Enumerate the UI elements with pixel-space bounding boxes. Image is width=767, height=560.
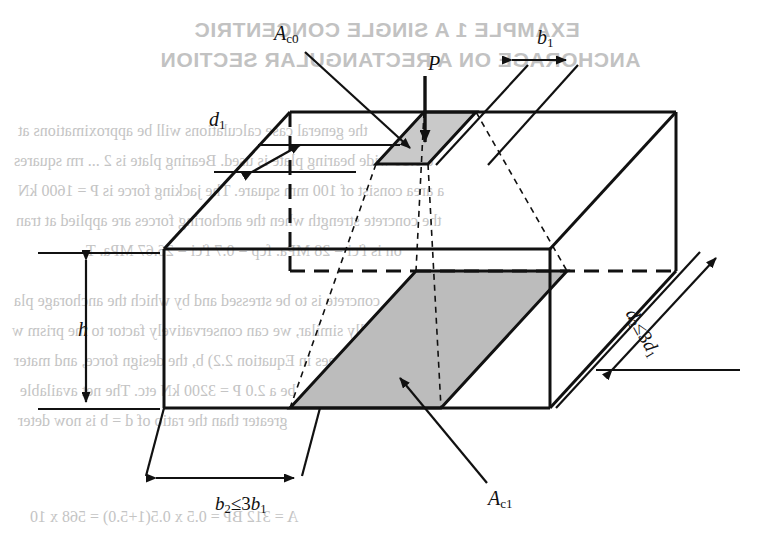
dimension-b2 <box>146 408 320 478</box>
label-load-p-base: P <box>428 52 440 74</box>
diagram-linework <box>0 0 767 560</box>
leader-ac0 <box>305 52 410 148</box>
label-ac1: Ac1 <box>488 487 513 512</box>
label-b2-operator: ≤ <box>231 493 241 514</box>
label-ac0-base: A <box>274 22 286 44</box>
label-h: h <box>78 318 88 341</box>
label-load-p: P <box>428 52 440 75</box>
label-d1: d1 <box>209 108 226 133</box>
label-b2-constraint: b2≤3b1 <box>215 493 266 517</box>
label-ac0: Ac0 <box>274 22 299 47</box>
label-b2-coefficient: 3 <box>241 493 251 514</box>
label-b2-rhs: b <box>251 493 261 514</box>
label-ac0-sub: c0 <box>286 31 298 46</box>
dimension-d1 <box>214 145 400 172</box>
label-h-base: h <box>78 318 88 340</box>
label-d1-sub: 1 <box>219 117 226 132</box>
box-hidden-edges <box>290 112 676 271</box>
label-b1-sub: 1 <box>547 35 554 50</box>
label-b1-base: b <box>537 26 547 48</box>
dimension-h <box>38 253 160 409</box>
label-d1-base: d <box>209 108 219 130</box>
anchorage-figure: EXAMPLE 1 A SINGLE CONCENTRIC ANCHORAGE … <box>0 0 767 560</box>
label-ac1-sub: c1 <box>500 496 512 511</box>
label-b1: b1 <box>537 26 554 51</box>
label-b2-lhs: b <box>215 493 225 514</box>
label-ac1-base: A <box>488 487 500 509</box>
label-b2-rhs-sub: 1 <box>260 502 266 516</box>
